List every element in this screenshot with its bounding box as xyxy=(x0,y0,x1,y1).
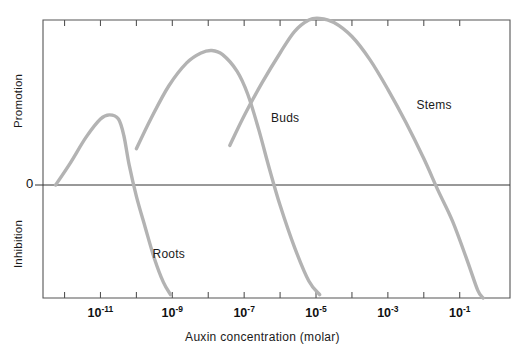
tick-exponent: -3 xyxy=(391,304,399,314)
tick-mantissa: 10 xyxy=(377,306,391,320)
tick-mantissa: 10 xyxy=(305,306,319,320)
series-label-buds: Buds xyxy=(271,111,299,125)
x-tick-label: 10-11 xyxy=(88,306,114,320)
plot-area xyxy=(0,0,525,354)
tick-exponent: -5 xyxy=(319,304,327,314)
tick-mantissa: 10 xyxy=(88,306,102,320)
tick-exponent: -7 xyxy=(247,304,255,314)
tick-exponent: -11 xyxy=(102,304,114,314)
x-tick-label: 10-3 xyxy=(377,306,398,320)
tick-mantissa: 10 xyxy=(449,306,463,320)
tick-mantissa: 10 xyxy=(233,306,247,320)
x-tick-label: 10-5 xyxy=(305,306,326,320)
series-label-roots: Roots xyxy=(153,247,185,261)
tick-exponent: -1 xyxy=(463,304,471,314)
tick-exponent: -9 xyxy=(175,304,183,314)
series-label-stems: Stems xyxy=(417,98,452,112)
tick-mantissa: 10 xyxy=(162,306,176,320)
x-axis-title: Auxin concentration (molar) xyxy=(0,330,525,344)
x-tick-label: 10-1 xyxy=(449,306,470,320)
auxin-response-chart: Promotion Inhibition 0 10-1110-910-710-5… xyxy=(0,0,525,354)
x-tick-label: 10-7 xyxy=(233,306,254,320)
x-tick-label: 10-9 xyxy=(162,306,183,320)
curve-roots xyxy=(56,115,171,295)
